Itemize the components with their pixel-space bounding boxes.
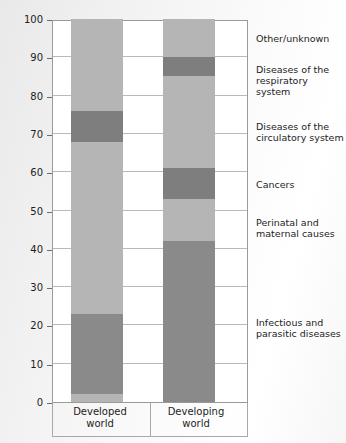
plot-area	[52, 20, 248, 403]
bar-segment[interactable]	[71, 142, 123, 314]
y-tick-mark-10	[47, 365, 52, 366]
legend-label-line1: Cancers	[256, 179, 344, 190]
legend-label-line2: respiratory system	[256, 75, 344, 97]
bar-segment[interactable]	[71, 111, 123, 142]
legend-label-line2: parasitic diseases	[256, 328, 344, 339]
x-category-label-line2: world	[148, 418, 244, 430]
legend-label-line2: maternal causes	[256, 228, 344, 239]
chart-figure: % of total deaths 1009080706050403020100…	[0, 0, 346, 443]
bar-segment[interactable]	[163, 168, 215, 199]
y-tick-label-60: 60	[3, 168, 43, 178]
legend-label-line1: Other/unknown	[256, 33, 344, 44]
x-category-label-line1: Developed	[52, 406, 148, 418]
y-tick-label-50: 50	[3, 207, 43, 217]
legend-item: Diseases of thecirculatory system	[256, 121, 344, 143]
bar-segment[interactable]	[163, 199, 215, 241]
legend-item: Cancers	[256, 179, 344, 190]
legend-item: Diseases of therespiratory system	[256, 64, 344, 97]
bar-segment[interactable]	[163, 241, 215, 402]
legend-label-line1: Diseases of the	[256, 121, 344, 132]
legend-label-line1: Infectious and	[256, 317, 344, 328]
y-tick-mark-100	[47, 20, 52, 21]
y-tick-mark-90	[47, 58, 52, 59]
legend-item: Perinatal andmaternal causes	[256, 217, 344, 239]
y-tick-label-90: 90	[3, 53, 43, 63]
bar-segment[interactable]	[163, 76, 215, 168]
y-tick-mark-50	[47, 212, 52, 213]
x-category-developing-world: Developing world	[148, 406, 244, 430]
y-tick-mark-80	[47, 97, 52, 98]
y-tick-mark-60	[47, 173, 52, 174]
y-tick-label-70: 70	[3, 130, 43, 140]
bar-segment[interactable]	[71, 19, 123, 111]
legend-label-line1: Perinatal and	[256, 217, 344, 228]
y-tick-label-0: 0	[3, 398, 43, 408]
bar-segment[interactable]	[163, 57, 215, 76]
x-category-label-line2: world	[52, 418, 148, 430]
legend-label-line1: Diseases of the	[256, 64, 344, 75]
y-tick-label-80: 80	[3, 92, 43, 102]
bar-segment[interactable]	[71, 314, 123, 394]
y-tick-label-20: 20	[3, 321, 43, 331]
legend-label-line2: circulatory system	[256, 132, 344, 143]
x-category-label-line1: Developing	[148, 406, 244, 418]
y-tick-label-10: 10	[3, 360, 43, 370]
bar-segment[interactable]	[71, 394, 123, 402]
bar-segment[interactable]	[163, 19, 215, 57]
x-category-developed-world: Developed world	[52, 406, 148, 430]
legend-item: Infectious andparasitic diseases	[256, 317, 344, 339]
y-tick-label-100: 100	[3, 15, 43, 25]
y-tick-label-40: 40	[3, 245, 43, 255]
y-tick-mark-40	[47, 250, 52, 251]
y-tick-mark-70	[47, 135, 52, 136]
legend-item: Other/unknown	[256, 33, 344, 44]
y-tick-mark-20	[47, 326, 52, 327]
y-tick-label-30: 30	[3, 283, 43, 293]
y-tick-mark-30	[47, 288, 52, 289]
